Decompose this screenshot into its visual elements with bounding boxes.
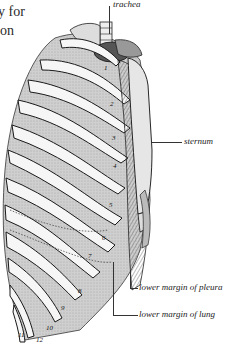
lung-leader-line-horizontal	[113, 315, 138, 316]
svg-text:8: 8	[78, 287, 82, 295]
svg-text:7: 7	[88, 252, 92, 260]
svg-text:4: 4	[113, 162, 117, 170]
label-lower-margin-of-pleura: lower margin of pleura	[139, 282, 222, 292]
svg-text:9: 9	[61, 304, 65, 312]
lung-leader-line-vertical	[113, 262, 114, 315]
trachea-leader-line	[109, 6, 110, 34]
label-sternum: sternum	[184, 136, 213, 146]
svg-text:1: 1	[104, 64, 108, 72]
svg-text:3: 3	[111, 134, 116, 142]
svg-text:12: 12	[36, 336, 44, 344]
svg-text:5: 5	[109, 201, 113, 209]
rib-cage-illustration: 1 2 3 4 5 6 7 8 9 10 11 12	[0, 0, 231, 344]
pleura-leader-line-horizontal	[130, 288, 138, 289]
pleura-leader-line-vertical	[130, 270, 131, 288]
svg-text:11: 11	[18, 331, 24, 339]
svg-text:10: 10	[46, 324, 54, 332]
label-trachea: trachea	[113, 0, 141, 9]
svg-text:2: 2	[110, 100, 114, 108]
svg-text:6: 6	[102, 234, 106, 242]
label-lower-margin-of-lung: lower margin of lung	[139, 309, 215, 319]
sternum-leader-line	[152, 142, 182, 143]
